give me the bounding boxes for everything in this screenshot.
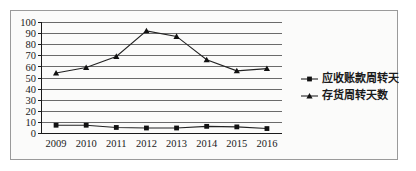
y-axis-tick-label: 40 xyxy=(26,84,37,95)
data-point-triangle xyxy=(143,28,149,34)
data-point-square xyxy=(114,125,119,130)
data-point-square xyxy=(307,77,312,82)
line-chart: 0102030405060708090100 20092010201120122… xyxy=(11,11,399,161)
x-axis-labels: 20092010201120122013201420152016 xyxy=(46,138,278,149)
x-axis-tick-label: 2016 xyxy=(256,138,277,149)
x-axis-tick-label: 2012 xyxy=(136,138,157,149)
y-axis-tick-label: 60 xyxy=(26,62,37,73)
y-axis-labels: 0102030405060708090100 xyxy=(20,17,36,139)
legend-label: 应收账款周转天数 xyxy=(322,71,399,85)
y-axis-tick-label: 100 xyxy=(20,17,36,28)
x-axis-tick-label: 2013 xyxy=(166,138,187,149)
y-axis-tick-label: 50 xyxy=(26,73,37,84)
data-point-square xyxy=(54,123,59,128)
chart-legend: 应收账款周转天数存货周转天数 xyxy=(301,71,399,102)
chart-container: 0102030405060708090100 20092010201120122… xyxy=(10,10,398,160)
y-axis-tick-label: 80 xyxy=(26,39,37,50)
y-axis-tick-label: 90 xyxy=(26,28,37,39)
x-axis-tick-label: 2015 xyxy=(226,138,247,149)
x-axis-tick-label: 2010 xyxy=(76,138,97,149)
y-axis-tick-label: 30 xyxy=(26,95,37,106)
y-axis-ticks xyxy=(38,23,41,134)
y-axis-tick-label: 70 xyxy=(26,50,37,61)
data-series-group xyxy=(53,28,270,131)
data-point-square xyxy=(204,124,209,129)
x-axis-tick-label: 2011 xyxy=(106,138,127,149)
gridlines-group xyxy=(41,23,282,134)
data-point-square xyxy=(84,123,89,128)
data-point-square xyxy=(265,126,270,131)
y-axis-tick-label: 10 xyxy=(26,117,37,128)
y-axis-tick-label: 0 xyxy=(31,128,36,139)
x-axis-tick-label: 2009 xyxy=(46,138,67,149)
legend-label: 存货周转天数 xyxy=(322,88,389,102)
data-point-square xyxy=(144,126,149,131)
plot-area: 0102030405060708090100 20092010201120122… xyxy=(11,11,399,161)
x-axis-tick-label: 2014 xyxy=(196,138,218,149)
y-axis-tick-label: 20 xyxy=(26,106,37,117)
data-point-square xyxy=(234,124,239,129)
data-point-square xyxy=(174,126,179,131)
